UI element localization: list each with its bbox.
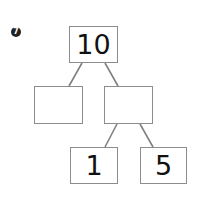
bottom-left-box: 1 [70,147,118,184]
connector-root-right [105,63,118,86]
right-answer-box[interactable] [104,86,153,124]
bottom-right-box: 5 [140,147,187,184]
connector-right-left [105,124,117,147]
left-answer-box[interactable] [34,86,83,124]
root-box: 10 [69,26,118,63]
connector-right-right [140,124,153,147]
connector-root-left [69,63,82,86]
